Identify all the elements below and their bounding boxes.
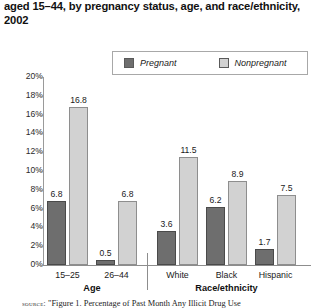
x-group-label: Race/ethnicity: [177, 283, 277, 293]
bar-pregnant-2644: [96, 260, 115, 265]
y-tick-label: 2%: [7, 240, 43, 250]
y-tick-label: 16%: [7, 109, 43, 119]
x-axis-line: [43, 265, 311, 266]
x-tick-label: Hispanic: [244, 270, 308, 280]
bar-value-label: 6.8: [112, 189, 143, 199]
source-text: "Figure 1. Percentage of Past Month Any …: [48, 299, 241, 308]
y-axis: 0%2%4%6%8%10%12%14%16%18%20%: [0, 0, 43, 308]
bar-nonpregnant-Black: [228, 181, 247, 265]
bar-pregnant-1525: [47, 201, 66, 265]
y-tick-label: 12%: [7, 146, 43, 156]
source-prefix: source:: [22, 299, 46, 308]
bar-value-label: 11.5: [173, 145, 204, 155]
bar-pregnant-Black: [206, 207, 225, 265]
bar-value-label: 3.6: [151, 219, 182, 229]
plot-area: 6.816.80.56.83.611.56.28.91.77.5: [43, 77, 311, 265]
source-note: source: "Figure 1. Percentage of Past Mo…: [22, 299, 321, 308]
group-separator-lower: [147, 266, 148, 290]
y-tick-label: 14%: [7, 127, 43, 137]
legend-item-nonpregnant: Nonpregnant: [219, 58, 287, 68]
bar-value-label: 8.9: [222, 169, 253, 179]
bar-nonpregnant-White: [179, 157, 198, 265]
bar-nonpregnant-Hispanic: [277, 195, 296, 266]
y-tick-label: 10%: [7, 165, 43, 175]
y-tick-label: 0%: [7, 259, 43, 269]
x-group-label: Age: [42, 283, 142, 293]
bar-value-label: 7.5: [271, 183, 302, 193]
legend-item-pregnant: Pregnant: [124, 58, 177, 68]
legend-label-nonpregnant: Nonpregnant: [235, 58, 287, 68]
bar-value-label: 0.5: [90, 248, 121, 258]
y-tick-label: 8%: [7, 184, 43, 194]
legend-swatch-icon: [219, 58, 229, 68]
y-tick-label: 20%: [7, 71, 43, 81]
bar-value-label: 6.8: [41, 189, 72, 199]
y-tick-label: 4%: [7, 221, 43, 231]
figure-title: aged 15–44, by pregnancy status, age, an…: [4, 0, 316, 27]
group-separator-upper: [147, 253, 148, 265]
legend-label-pregnant: Pregnant: [140, 58, 177, 68]
bar-pregnant-Hispanic: [255, 249, 274, 265]
bar-pregnant-White: [157, 231, 176, 265]
bar-value-label: 1.7: [249, 237, 280, 247]
x-tick-label: 26–44: [85, 270, 149, 280]
y-tick-label: 18%: [7, 90, 43, 100]
bar-value-label: 6.2: [200, 195, 231, 205]
y-tick-label: 6%: [7, 203, 43, 213]
figure-container: aged 15–44, by pregnancy status, age, an…: [0, 0, 321, 308]
bar-value-label: 16.8: [63, 95, 94, 105]
legend-swatch-icon: [124, 58, 134, 68]
bar-nonpregnant-1525: [69, 107, 88, 265]
chart-legend: Pregnant Nonpregnant: [112, 51, 308, 75]
bar-nonpregnant-2644: [118, 201, 137, 265]
